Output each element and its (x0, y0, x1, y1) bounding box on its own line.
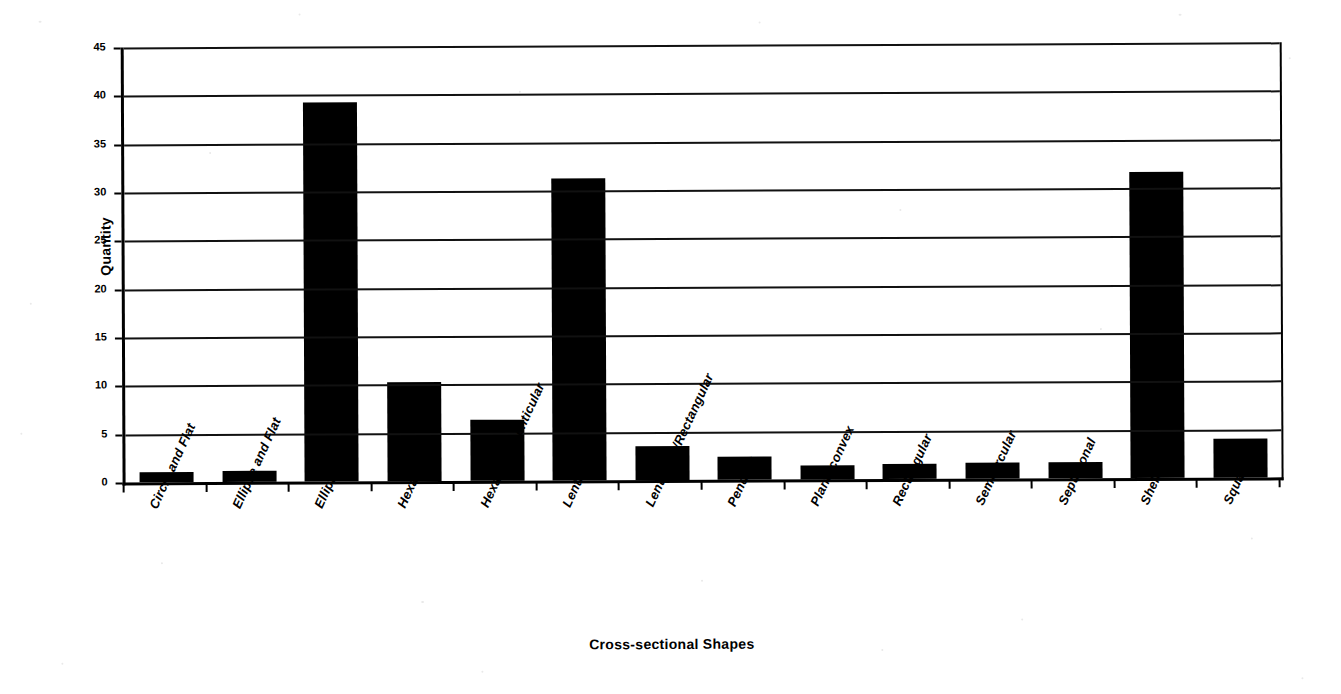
scan-speckle (39, 21, 42, 23)
scan-speckle (1251, 537, 1253, 539)
bar-slot (949, 43, 1033, 478)
scan-speckle (20, 433, 22, 435)
bar-slot (1197, 42, 1281, 477)
bar-slot (1115, 43, 1199, 478)
y-tick-mark-5 (115, 434, 122, 436)
scan-speckle (1289, 57, 1291, 59)
y-axis: 051015202530354045 (0, 0, 1339, 3)
x-tick-mark-5 (535, 482, 537, 491)
scan-speckles (0, 0, 1339, 3)
y-tick-mark-45 (114, 47, 121, 49)
y-tick-label-40: 40 (76, 90, 106, 101)
x-tick-mark-0 (123, 483, 125, 492)
scan-speckle (161, 562, 163, 564)
y-tick-label-30: 30 (76, 186, 106, 197)
y-tick-label-0: 0 (78, 476, 108, 487)
scan-speckle (1021, 618, 1023, 620)
y-tick-label-5: 5 (77, 428, 107, 439)
scan-speckle (1301, 677, 1303, 679)
y-tick-label-35: 35 (76, 138, 106, 149)
bar-slot (371, 46, 455, 481)
bar-slot (702, 45, 786, 480)
x-tick-mark-7 (701, 481, 703, 490)
bar (1129, 171, 1184, 478)
x-tick-mark-13 (1196, 479, 1198, 488)
x-tick-mark-2 (288, 483, 290, 492)
y-tick-mark-30 (114, 192, 121, 194)
bar-slot (206, 47, 290, 482)
scan-speckle (421, 601, 424, 603)
y-tick-mark-40 (114, 96, 121, 98)
x-tick-mark-9 (866, 480, 868, 489)
x-axis-ticks (0, 0, 1339, 3)
bar (551, 179, 606, 481)
bar-slot (867, 44, 951, 479)
y-tick-mark-35 (114, 144, 121, 146)
y-tick-label-20: 20 (77, 283, 107, 294)
plot-area (121, 42, 1284, 485)
x-tick-mark-6 (618, 481, 620, 490)
bar-slot (289, 46, 373, 481)
bar-chart-figure: Quantity 051015202530354045 Circle and F… (0, 0, 1341, 694)
y-tick-mark-20 (115, 289, 122, 291)
x-axis-labels: Circle and FlatEllipse and FlatElliptica… (0, 0, 1339, 3)
scan-speckle (299, 14, 301, 16)
x-tick-mark-14 (1279, 478, 1281, 487)
scan-speckle (1179, 14, 1182, 16)
x-axis-title: Cross-sectional Shapes (1, 633, 1341, 655)
scan-speckle (61, 663, 63, 665)
bar-slot (537, 45, 621, 480)
y-tick-mark-25 (115, 241, 122, 243)
y-tick-mark-0 (116, 482, 123, 484)
bar (303, 102, 359, 481)
x-tick-mark-3 (370, 482, 372, 491)
y-tick-mark-15 (115, 337, 122, 339)
bar-slot (124, 47, 208, 482)
y-tick-label-25: 25 (77, 235, 107, 246)
y-tick-label-45: 45 (76, 41, 106, 52)
x-tick-mark-11 (1031, 479, 1033, 488)
x-tick-mark-10 (948, 480, 950, 489)
y-tick-label-15: 15 (77, 331, 107, 342)
y-tick-label-10: 10 (77, 380, 107, 391)
y-tick-mark-10 (115, 386, 122, 388)
x-tick-mark-12 (1113, 479, 1115, 488)
bar-slot (1032, 43, 1116, 478)
bars-layer (124, 42, 1282, 482)
scan-speckle (701, 580, 703, 582)
x-tick-mark-8 (783, 481, 785, 490)
scan-speckle (481, 671, 483, 673)
x-tick-mark-4 (453, 482, 455, 491)
x-tick-mark-1 (205, 483, 207, 492)
bar-slot (784, 44, 868, 479)
scan-speckle (30, 303, 32, 305)
scan-speckle (759, 22, 761, 24)
